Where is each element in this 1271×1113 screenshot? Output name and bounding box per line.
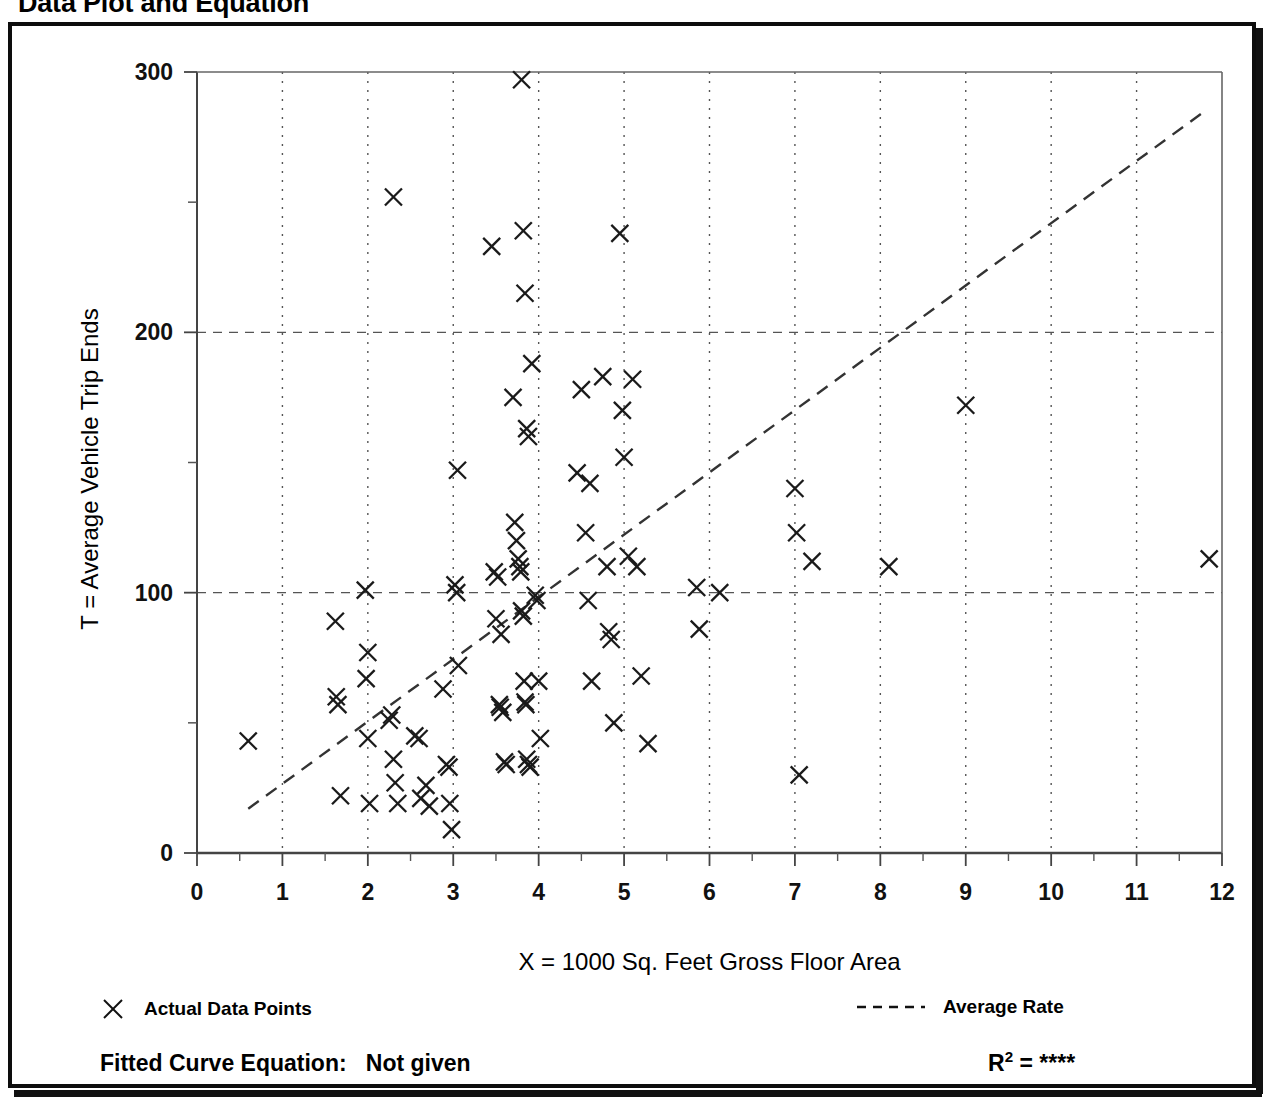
data-point-marker — [957, 397, 974, 414]
x-marker-icon — [100, 996, 126, 1022]
gridlines — [197, 72, 1222, 853]
r2-equals: = — [1019, 1050, 1032, 1076]
data-point-marker — [516, 673, 533, 690]
x-tick-label: 5 — [618, 879, 631, 905]
x-tick-label: 6 — [703, 879, 716, 905]
y-tick-label: 0 — [160, 840, 173, 866]
data-point-marker — [381, 712, 398, 729]
y-axis-title: T = Average Vehicle Trip Ends — [76, 259, 104, 679]
r2-exponent: 2 — [1005, 1048, 1013, 1065]
data-point-marker — [633, 667, 650, 684]
data-point-marker — [640, 735, 657, 752]
data-point-marker — [880, 558, 897, 575]
data-point-marker — [569, 464, 586, 481]
data-point-marker — [492, 699, 509, 716]
data-point-marker — [517, 696, 534, 713]
fitted-curve-equation: Fitted Curve Equation: Not given — [100, 1050, 471, 1077]
data-point-marker — [508, 532, 525, 549]
x-tick-label: 1 — [276, 879, 289, 905]
y-tick-labels: 0100200300 — [135, 59, 173, 866]
data-point-marker — [486, 563, 503, 580]
data-point-marker — [505, 389, 522, 406]
data-point-marker — [791, 766, 808, 783]
data-point-marker — [327, 613, 344, 630]
data-point-marker — [594, 368, 611, 385]
data-point-marker — [357, 582, 374, 599]
data-point-marker — [788, 524, 805, 541]
r-squared: R2 = **** — [988, 1048, 1075, 1077]
data-point-marker — [577, 524, 594, 541]
data-point-marker — [389, 795, 406, 812]
data-point-marker — [506, 514, 523, 531]
data-point-marker — [581, 475, 598, 492]
data-point-marker — [493, 626, 510, 643]
data-point-marker — [359, 730, 376, 747]
y-tick-label: 300 — [135, 59, 173, 85]
data-point-marker — [580, 592, 597, 609]
data-point-marker — [624, 371, 641, 388]
data-point-marker — [487, 610, 504, 627]
x-tick-label: 4 — [532, 879, 545, 905]
data-point-marker — [583, 673, 600, 690]
equation-value: Not given — [366, 1050, 471, 1076]
data-point-marker — [450, 657, 467, 674]
data-point-marker — [620, 548, 637, 565]
data-point-marker — [489, 569, 506, 586]
x-axis-title: X = 1000 Sq. Feet Gross Floor Area — [197, 948, 1222, 976]
data-point-marker — [240, 733, 257, 750]
data-point-marker — [786, 480, 803, 497]
plot-svg: 0123456789101112 0100200300 — [0, 0, 1271, 1113]
x-tick-label: 0 — [191, 879, 204, 905]
data-point-marker — [605, 714, 622, 731]
x-tick-label: 3 — [447, 879, 460, 905]
x-tick-label: 12 — [1209, 879, 1235, 905]
data-point-marker — [358, 670, 375, 687]
data-point-marker — [332, 787, 349, 804]
legend-rate-label: Average Rate — [943, 996, 1064, 1018]
data-point-marker — [385, 751, 402, 768]
data-point-marker — [417, 777, 434, 794]
data-point-marker — [523, 355, 540, 372]
data-point-marker — [688, 579, 705, 596]
y-tick-label: 200 — [135, 319, 173, 345]
data-point-marker — [435, 680, 452, 697]
data-point-marker — [361, 795, 378, 812]
data-point-marker — [385, 188, 402, 205]
trend-line — [248, 111, 1205, 809]
legend-actual-data-points: Actual Data Points — [100, 996, 312, 1022]
data-point-marker — [517, 694, 534, 711]
data-point-marker — [513, 71, 530, 88]
data-point-marker — [449, 462, 466, 479]
r2-value: **** — [1039, 1050, 1075, 1076]
scatter-chart: 0123456789101112 0100200300 T = Average … — [0, 0, 1271, 1113]
data-point-marker — [383, 707, 400, 724]
data-point-marker — [441, 795, 458, 812]
data-point-marker — [614, 402, 631, 419]
axis-ticks — [184, 72, 1222, 866]
x-tick-labels: 0123456789101112 — [191, 879, 1235, 905]
data-point-marker — [515, 222, 532, 239]
data-point-marker — [573, 381, 590, 398]
data-point-marker — [611, 225, 628, 242]
x-tick-label: 11 — [1124, 879, 1149, 905]
data-point-marker — [532, 730, 549, 747]
equation-label: Fitted Curve Equation: — [100, 1050, 347, 1076]
data-point-marker — [483, 238, 500, 255]
data-point-marker — [498, 756, 515, 773]
data-points — [240, 71, 1218, 838]
data-point-marker — [804, 553, 821, 570]
x-tick-label: 10 — [1038, 879, 1064, 905]
r2-label: R — [988, 1050, 1005, 1076]
data-point-marker — [443, 821, 460, 838]
dashed-line-icon — [855, 1001, 927, 1013]
data-point-marker — [1201, 550, 1218, 567]
legend-points-label: Actual Data Points — [144, 998, 312, 1020]
x-tick-label: 2 — [361, 879, 374, 905]
y-tick-label: 100 — [135, 580, 173, 606]
legend-average-rate: Average Rate — [855, 996, 1064, 1018]
data-point-marker — [517, 285, 534, 302]
data-point-marker — [628, 558, 645, 575]
data-point-marker — [691, 621, 708, 638]
x-tick-label: 7 — [789, 879, 802, 905]
x-tick-label: 8 — [874, 879, 887, 905]
